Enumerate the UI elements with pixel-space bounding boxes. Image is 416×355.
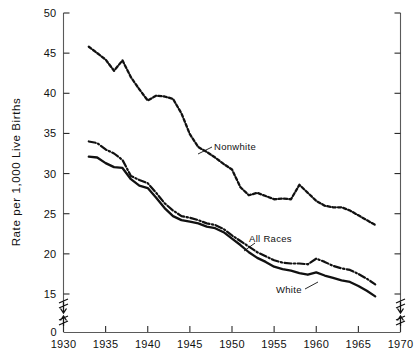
y-axis-left: [59, 13, 68, 332]
x-tick-label: 1955: [261, 338, 287, 350]
x-tick-label: 1960: [303, 338, 329, 350]
x-tick-label: 1940: [135, 338, 161, 350]
y-axis-right-break-lower-icon: [396, 316, 405, 326]
annotation-white: White: [276, 282, 318, 295]
y-tick-label: 25: [44, 208, 57, 220]
y-axis-right: [396, 13, 405, 332]
series-line-white: [89, 157, 375, 297]
x-tick-label: 1950: [219, 338, 245, 350]
chart-plot-area: 1520253035404550 19301935194019451950195…: [0, 0, 416, 355]
y-axis-break-lower-icon: [59, 316, 68, 326]
y-axis-title: Rate per 1,000 Live Births: [10, 98, 22, 247]
y-axis-zero-label: 0: [51, 326, 57, 338]
x-tick-label: 1935: [93, 338, 119, 350]
y-tick-group-left: 1520253035404550: [44, 7, 70, 300]
y-axis-break-upper-icon: [59, 299, 68, 313]
series-line-nonwhite: [89, 47, 375, 225]
y-axis-right-break-upper-icon: [396, 299, 405, 313]
x-tick-group: 193019351940194519501955196019651970: [51, 326, 414, 350]
x-tick-label: 1945: [177, 338, 203, 350]
series-label-all-races: All Races: [249, 233, 292, 244]
y-tick-label: 45: [44, 47, 57, 59]
series-label-white: White: [276, 284, 302, 295]
y-tick-label: 15: [44, 288, 57, 300]
x-tick-label: 1970: [388, 338, 414, 350]
y-tick-label: 30: [44, 168, 57, 180]
x-tick-label: 1965: [346, 338, 372, 350]
x-tick-label: 1930: [51, 338, 77, 350]
birth-rate-chart-figure: 1520253035404550 19301935194019451950195…: [0, 0, 416, 355]
annotation-leader-white: [305, 282, 318, 289]
y-tick-label: 40: [44, 87, 57, 99]
series-line-all-races: [89, 141, 375, 284]
y-tick-label: 20: [44, 248, 57, 260]
series-label-nonwhite: Nonwhite: [214, 141, 256, 152]
y-tick-label: 35: [44, 127, 57, 139]
y-tick-label: 50: [44, 7, 57, 19]
y-tick-group-right: [395, 13, 401, 294]
